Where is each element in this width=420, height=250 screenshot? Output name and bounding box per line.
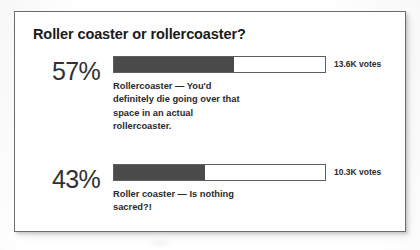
poll-option-answer: Roller coaster — Is nothing sacred?! (113, 188, 245, 215)
poll-option-votes: 10.3K votes (334, 167, 381, 177)
poll-option-percent: 57% (39, 56, 113, 86)
poll-option-percent: 43% (39, 164, 113, 194)
page-title: Roller coaster or rollercoaster? (33, 26, 246, 42)
poll-option-votes: 13.6K votes (334, 59, 381, 69)
poll-bar-track (113, 56, 326, 73)
poll-bar-fill (114, 57, 234, 72)
poll-bar-track (113, 164, 326, 181)
poll-card: Roller coaster or rollercoaster? 57% 13.… (14, 11, 406, 232)
poll-option-bar-block: 10.3K votes Roller coaster — Is nothing … (113, 164, 326, 181)
poll-option-answer: Rollercoaster — You'd definitely die goi… (113, 80, 245, 134)
poll-option-bar-block: 13.6K votes Rollercoaster — You'd defini… (113, 56, 326, 73)
poll-bar-fill (114, 165, 205, 180)
